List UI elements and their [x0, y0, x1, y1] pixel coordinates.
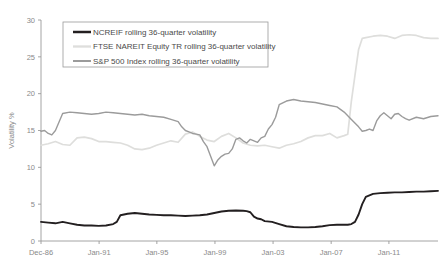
x-tick-label: Jan-03 [262, 248, 285, 257]
y-tick-label: 15 [27, 126, 35, 135]
series-line-2 [41, 100, 438, 166]
x-tick-label: Jan-11 [378, 248, 400, 257]
x-tick-label: Jan-99 [203, 248, 226, 257]
y-tick-label: 30 [27, 16, 35, 25]
volatility-line-chart: 051015202530 Dec-86Jan-91Jan-95Jan-99Jan… [0, 0, 444, 271]
x-axis-tick-group: Dec-86Jan-91Jan-95Jan-99Jan-03Jan-07Jan-… [29, 241, 400, 257]
y-tick-label: 0 [31, 237, 35, 246]
y-tick-label: 10 [27, 163, 35, 172]
y-tick-label: 25 [27, 53, 35, 62]
y-axis-title: Volatility % [7, 112, 16, 149]
y-tick-label: 20 [27, 89, 35, 98]
legend-label-2: S&P 500 Index rolling 36-quarter volatil… [93, 57, 240, 66]
x-tick-label: Jan-07 [320, 248, 343, 257]
legend-label-1: FTSE NAREIT Equity TR rolling 36-quarter… [93, 42, 275, 51]
chart-legend: NCREIF rolling 36-quarter volatilityFTSE… [63, 22, 275, 67]
x-tick-label: Jan-91 [88, 248, 111, 257]
y-tick-label: 5 [31, 200, 35, 209]
chart-svg: 051015202530 Dec-86Jan-91Jan-95Jan-99Jan… [0, 0, 444, 271]
x-tick-label: Dec-86 [29, 248, 53, 257]
series-line-0 [41, 191, 438, 227]
y-axis-tick-group: 051015202530 [27, 16, 41, 246]
legend-label-0: NCREIF rolling 36-quarter volatility [93, 28, 216, 37]
x-tick-label: Jan-95 [145, 248, 168, 257]
